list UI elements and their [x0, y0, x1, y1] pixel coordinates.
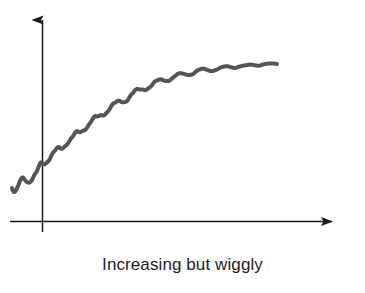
figure-container: Increasing but wiggly [0, 0, 365, 293]
figure-caption: Increasing but wiggly [0, 254, 365, 276]
plot-background [0, 0, 365, 293]
plot-svg [0, 0, 365, 293]
